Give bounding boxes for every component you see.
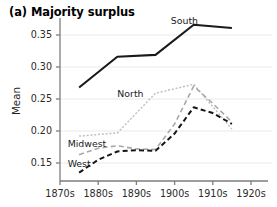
y-tick-label: 0.30: [22, 61, 52, 72]
x-tick-label: 1880s: [78, 188, 118, 199]
y-tick-label: 0.35: [22, 29, 52, 40]
x-tick-label: 1920s: [231, 188, 271, 199]
y-tick-label: 0.25: [22, 93, 52, 104]
x-tick-label: 1910s: [193, 188, 233, 199]
y-tick-label: 0.20: [22, 125, 52, 136]
x-tick-label: 1890s: [116, 188, 156, 199]
chart-figure: (a) Majority surplus Mean 0.150.200.250.…: [0, 0, 277, 207]
x-tick-label: 1900s: [155, 188, 195, 199]
series-label-north: North: [117, 88, 143, 99]
x-tick-label: 1870s: [40, 188, 80, 199]
series-label-south: South: [171, 15, 198, 26]
series-label-west: West: [68, 158, 91, 169]
y-tick-label: 0.15: [22, 157, 52, 168]
series-label-midwest: Midwest: [68, 138, 107, 149]
series-line-north: [79, 84, 232, 136]
series-line-south: [79, 25, 232, 88]
